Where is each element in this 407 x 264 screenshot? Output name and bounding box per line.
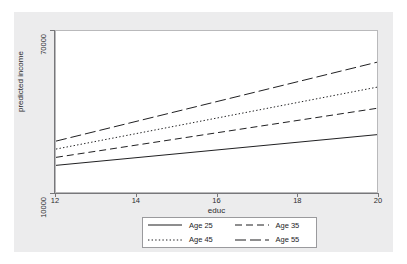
x-tick-label: 20 bbox=[374, 196, 382, 205]
y-tick-mark bbox=[50, 30, 54, 31]
plot-lines-svg bbox=[56, 31, 377, 192]
legend-label: Age 55 bbox=[270, 235, 300, 244]
legend-item-age-55[interactable]: Age 55 bbox=[230, 235, 317, 244]
legend-swatch-solid bbox=[147, 221, 183, 229]
legend-label: Age 25 bbox=[183, 221, 213, 230]
chart-legend: Age 25Age 35Age 45Age 55 bbox=[142, 217, 317, 248]
legend-swatch-dashdot bbox=[234, 236, 270, 244]
x-tick-label: 18 bbox=[293, 196, 301, 205]
y-axis-title: predicted income bbox=[16, 51, 25, 112]
legend-label: Age 35 bbox=[270, 221, 300, 230]
figure-canvas: 1000070000 1214161820 predicted income e… bbox=[14, 12, 393, 252]
legend-swatch-dotted bbox=[147, 236, 183, 244]
legend-item-age-35[interactable]: Age 35 bbox=[230, 221, 317, 230]
legend-swatch-dashed bbox=[234, 221, 270, 229]
y-tick-mark bbox=[50, 193, 54, 194]
x-tick-label: 12 bbox=[51, 196, 59, 205]
x-axis-title: educ bbox=[55, 206, 378, 215]
legend-label: Age 45 bbox=[183, 235, 213, 244]
plot-area bbox=[55, 30, 378, 193]
data-line-age-45 bbox=[56, 87, 377, 149]
y-axis-line bbox=[54, 30, 55, 194]
data-line-age-55 bbox=[56, 62, 377, 141]
x-tick-label: 14 bbox=[132, 196, 140, 205]
legend-item-age-25[interactable]: Age 25 bbox=[143, 221, 230, 230]
x-tick-label: 16 bbox=[212, 196, 220, 205]
legend-item-age-45[interactable]: Age 45 bbox=[143, 235, 230, 244]
